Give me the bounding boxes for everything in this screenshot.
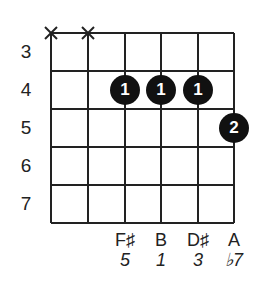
note-name: A	[219, 230, 249, 250]
fret-number: 5	[16, 118, 36, 138]
fret-number: 4	[16, 80, 36, 100]
scale-degree: 1	[146, 250, 176, 270]
scale-degree: 5	[110, 250, 140, 270]
scale-degree: 3	[183, 250, 213, 270]
fret-number: 7	[16, 194, 36, 214]
note-name: F♯	[110, 230, 140, 250]
fret-number: 3	[16, 42, 36, 62]
finger-dot: 1	[183, 75, 213, 105]
chord-diagram: 3 4 5 6 7 1 1 1 2 F♯ B D♯ A 5 1 3 ♭7	[0, 0, 263, 283]
fret-number: 6	[16, 156, 36, 176]
note-name: B	[146, 230, 176, 250]
finger-dot: 1	[110, 75, 140, 105]
scale-degree: ♭7	[219, 250, 249, 270]
note-name: D♯	[183, 230, 213, 250]
finger-dot: 1	[146, 75, 176, 105]
finger-dot: 2	[219, 113, 249, 143]
